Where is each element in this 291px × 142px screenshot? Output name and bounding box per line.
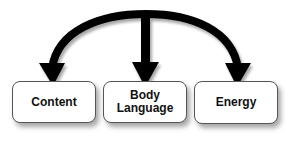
node-energy: Energy [194,81,278,124]
node-body-language-line-1: Body [130,88,160,102]
node-body-language-label: Body Language [117,89,174,115]
node-body-language: Body Language [103,81,187,123]
node-content-label: Content [31,96,76,109]
node-energy-label: Energy [216,96,257,109]
center-arrow-shaft [141,14,150,66]
node-content: Content [12,81,96,123]
node-body-language-line-2: Language [117,101,174,115]
